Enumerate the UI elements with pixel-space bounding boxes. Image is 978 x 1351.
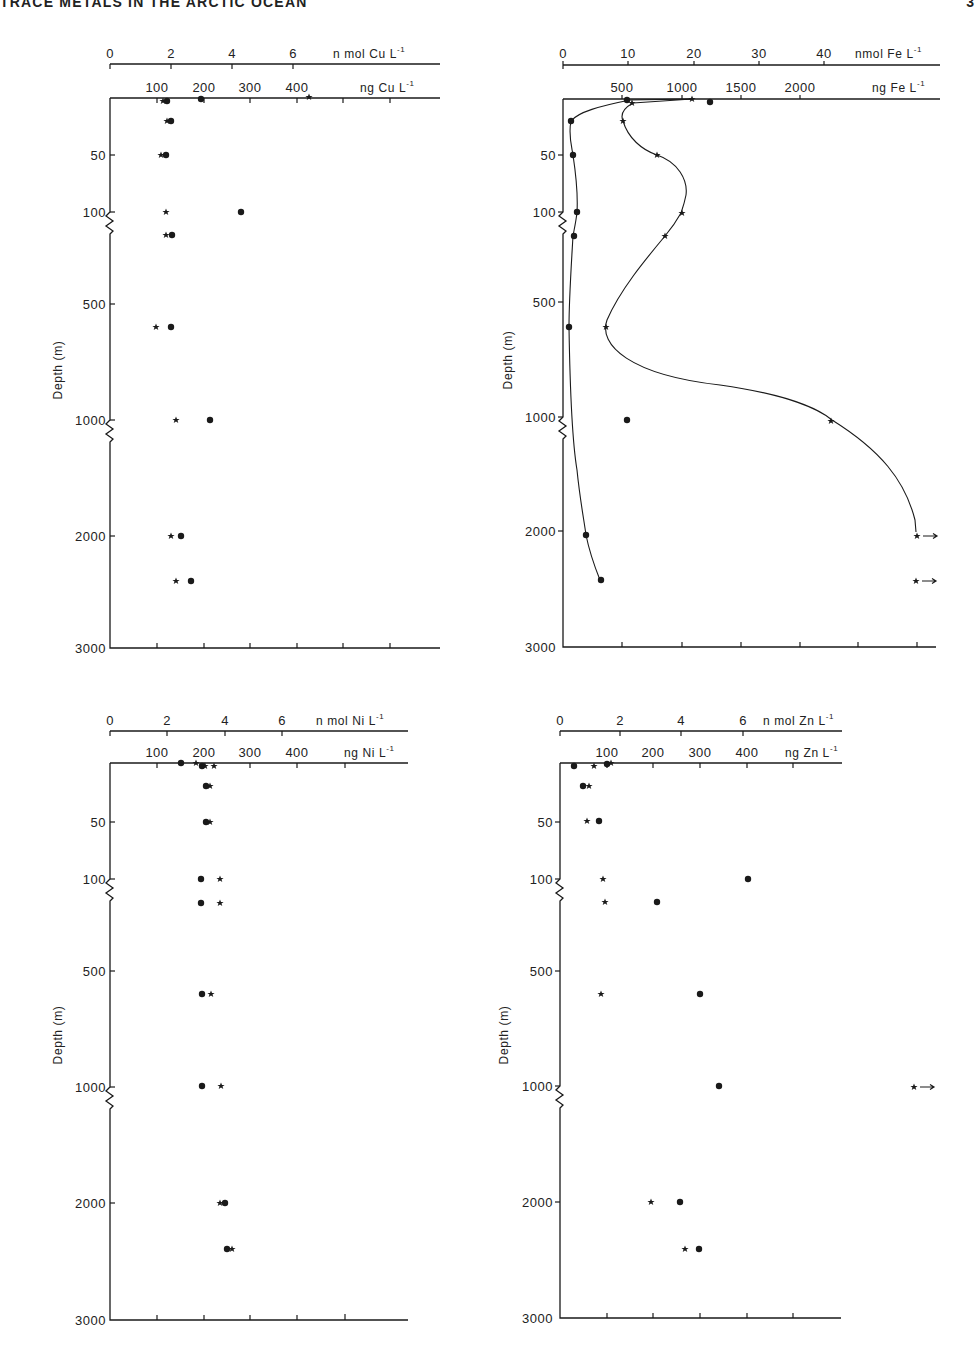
panel-cu: 0 2 4 6 n mol Cu L-1 100 200 300 400 ng … (51, 45, 440, 656)
cu-top-unit: n mol Cu L-1 (333, 45, 405, 61)
zn-bottom-tick: 400 (735, 745, 758, 760)
zn-y-tick: 500 (530, 964, 553, 979)
fe-y-tick: 1000 (525, 410, 556, 425)
cu-bottom-tick: 200 (192, 80, 215, 95)
figure: 0 2 4 6 n mol Cu L-1 100 200 300 400 ng … (0, 0, 978, 1351)
zn-bottom-tick: 300 (688, 745, 711, 760)
off-scale-arrow-icon (923, 534, 937, 539)
zn-nmol-axis: 0 2 4 6 n mol Zn L-1 (556, 712, 842, 736)
ni-bottom-unit: ng Ni L-1 (344, 744, 395, 760)
zn-y-tick: 1000 (522, 1079, 553, 1094)
cu-y-tick: 100 (83, 205, 106, 220)
zn-bottom-unit: ng Zn L-1 (785, 744, 838, 760)
cu-bottom-tick: 100 (145, 80, 168, 95)
off-scale-arrow-icon (922, 579, 936, 584)
cu-y-tick: 2000 (75, 529, 106, 544)
ni-y-tick: 3000 (75, 1313, 106, 1328)
zn-ylabel: Depth (m) (497, 1006, 511, 1065)
zn-top-tick: 2 (616, 713, 624, 728)
cu-bottom-tick: 300 (238, 80, 261, 95)
zn-bottom-tick: 200 (641, 745, 664, 760)
fe-ng-axis: 500 1000 1500 2000 ng Fe L-1 (563, 79, 940, 99)
cu-ylabel: Depth (m) (51, 341, 65, 400)
panel-fe: 0 10 20 30 40 nmol Fe L-1 500 1000 1500 … (501, 45, 940, 655)
cu-y-tick: 1000 (75, 413, 106, 428)
fe-bottom-tick: 2000 (785, 80, 816, 95)
ni-ng-axis: 100 200 300 400 ng Ni L-1 (110, 744, 408, 768)
ni-top-tick: 6 (278, 713, 286, 728)
off-scale-arrow-icon (920, 1085, 934, 1090)
ni-ylabel: Depth (m) (51, 1006, 65, 1065)
zn-top-tick: 0 (556, 713, 564, 728)
ni-nmol-axis: 0 2 4 6 n mol Ni L-1 (106, 712, 408, 736)
zn-y-tick: 3000 (522, 1311, 553, 1326)
cu-nmol-axis: 0 2 4 6 n mol Cu L-1 (106, 45, 440, 69)
ni-bottom-tick: 200 (192, 745, 215, 760)
ni-depth-axis: 50 100 500 1000 2000 3000 Depth (m) (51, 763, 408, 1328)
cu-y-tick: 50 (91, 148, 106, 163)
zn-top-unit: n mol Zn L-1 (763, 712, 834, 728)
cu-y-tick: 3000 (75, 641, 106, 656)
cu-data (152, 93, 312, 584)
fe-top-tick: 30 (751, 46, 766, 61)
fe-top-tick: 40 (816, 46, 831, 61)
fe-top-tick: 20 (686, 46, 701, 61)
panel-ni: 0 2 4 6 n mol Ni L-1 100 200 300 400 ng … (51, 712, 408, 1328)
fe-bottom-unit: ng Fe L-1 (872, 79, 925, 95)
cu-top-tick: 0 (106, 46, 114, 61)
fe-top-unit: nmol Fe L-1 (855, 45, 922, 61)
ni-y-tick: 1000 (75, 1080, 106, 1095)
zn-y-tick: 2000 (522, 1195, 553, 1210)
zn-top-tick: 4 (677, 713, 685, 728)
zn-data (571, 759, 934, 1252)
fe-data (566, 95, 937, 584)
ni-bottom-tick: 300 (238, 745, 261, 760)
ni-y-tick: 2000 (75, 1196, 106, 1211)
cu-top-tick: 4 (228, 46, 236, 61)
fe-y-tick: 100 (533, 205, 556, 220)
ni-bottom-tick: 400 (285, 745, 308, 760)
panel-zn: 0 2 4 6 n mol Zn L-1 100 200 300 400 ng … (497, 712, 934, 1326)
zn-y-tick: 100 (530, 872, 553, 887)
cu-ng-axis: 100 200 300 400 ng Cu L-1 (110, 79, 440, 103)
cu-y-tick: 500 (83, 297, 106, 312)
zn-top-tick: 6 (739, 713, 747, 728)
zn-bottom-tick: 100 (595, 745, 618, 760)
ni-top-unit: n mol Ni L-1 (316, 712, 384, 728)
cu-bottom-unit: ng Cu L-1 (360, 79, 415, 95)
ni-top-tick: 2 (163, 713, 171, 728)
fe-curves (569, 99, 916, 580)
fe-y-tick: 500 (533, 295, 556, 310)
ni-y-tick: 100 (83, 872, 106, 887)
cu-bottom-tick: 400 (285, 80, 308, 95)
fe-nmol-axis: 0 10 20 30 40 nmol Fe L-1 (559, 45, 940, 69)
cu-top-tick: 6 (289, 46, 297, 61)
fe-bottom-tick: 1500 (726, 80, 757, 95)
fe-top-tick: 10 (620, 46, 635, 61)
fe-y-tick: 2000 (525, 524, 556, 539)
cu-top-tick: 2 (167, 46, 175, 61)
ni-y-tick: 50 (91, 815, 106, 830)
cu-depth-axis: 50 100 500 1000 2000 3000 Depth (m) (51, 98, 440, 656)
zn-depth-axis: 50 100 500 1000 2000 3000 Depth (m) (497, 763, 841, 1326)
ni-top-tick: 4 (221, 713, 229, 728)
fe-y-tick: 50 (541, 148, 556, 163)
ni-y-tick: 500 (83, 964, 106, 979)
ni-top-tick: 0 (106, 713, 114, 728)
fe-bottom-tick: 500 (610, 80, 633, 95)
fe-depth-axis: 50 100 500 1000 2000 3000 Depth (m) (501, 99, 936, 655)
ni-data (178, 759, 236, 1252)
fe-top-tick: 0 (559, 46, 567, 61)
fe-ylabel: Depth (m) (501, 331, 515, 390)
zn-y-tick: 50 (538, 815, 553, 830)
zn-ng-axis: 100 200 300 400 ng Zn L-1 (560, 744, 842, 768)
fe-bottom-tick: 1000 (667, 80, 698, 95)
ni-bottom-tick: 100 (145, 745, 168, 760)
fe-y-tick: 3000 (525, 640, 556, 655)
